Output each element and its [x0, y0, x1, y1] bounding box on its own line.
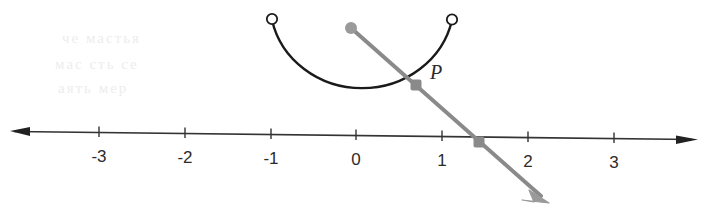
ray-group [345, 22, 549, 203]
ray-origin-dot [345, 22, 357, 34]
tick-label-minus-2: -2 [165, 149, 205, 166]
number-line-group [10, 127, 698, 145]
tick-label-1: 1 [422, 152, 462, 169]
point-p-marker [411, 80, 422, 91]
diagram-canvas [0, 0, 706, 212]
tick-label-minus-3: -3 [79, 148, 119, 165]
tick-label-3: 3 [594, 154, 634, 171]
tick-label-2: 2 [508, 153, 548, 170]
figure-container: че мастья мас сть се аять мер [0, 0, 706, 212]
semicircular-arc [272, 20, 452, 88]
ray-axis-crossing-marker [474, 137, 485, 148]
arc-group [267, 14, 457, 88]
terminal-ray-segment [351, 28, 541, 196]
arrow-right-icon [676, 136, 698, 145]
open-circle-endpoint-left [267, 14, 277, 24]
tick-label-minus-1: -1 [251, 150, 291, 167]
arrow-left-icon [10, 127, 30, 136]
tick-label-0: 0 [336, 151, 376, 168]
open-circle-endpoint-right [447, 14, 457, 24]
number-line-axis [14, 132, 692, 140]
point-p-label: P [430, 62, 442, 82]
